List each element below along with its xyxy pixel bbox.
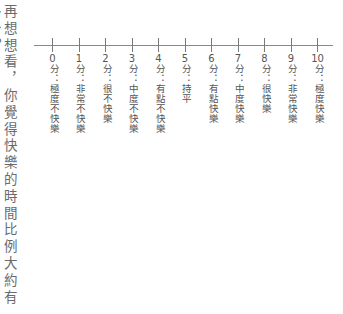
option-description: 很不快樂 [99,84,113,124]
scale-option-8[interactable]: 8 分 ： 很快樂 [258,54,272,114]
option-value: 5 [175,54,195,64]
option-value: 1 [69,54,89,64]
scale-option-1[interactable]: 1 分 ： 非常不快樂 [72,54,86,134]
option-description: 非常不快樂 [72,84,86,134]
option-separator: ： [99,74,113,84]
option-description: 有點快樂 [205,84,219,124]
option-unit: 分 [284,64,298,74]
option-value: 10 [308,54,328,64]
scale-option-5[interactable]: 5 分 ： 持平 [178,54,192,104]
scale-option-10[interactable]: 10 分 ： 極度快樂 [311,54,325,124]
option-unit: 分 [178,64,192,74]
option-separator: ： [125,74,139,84]
option-description: 非常快樂 [284,84,298,124]
option-unit: 分 [72,64,86,74]
option-separator: ： [205,74,219,84]
option-description: 持平 [178,84,192,104]
option-separator: ： [284,74,298,84]
option-separator: ： [311,74,325,84]
option-unit: 分 [99,64,113,74]
option-description: 有點不快樂 [152,84,166,134]
scale-option-9[interactable]: 9 分 ： 非常快樂 [284,54,298,124]
scale-option-7[interactable]: 7 分 ： 中度快樂 [231,54,245,124]
happiness-scale: 0 分 ： 極度不快樂 1 分 ： 非常不快樂 2 分 ： 很不快樂 3 分 ：… [34,38,334,148]
option-value: 6 [202,54,222,64]
scale-tick-0 [52,38,53,52]
option-value: 3 [122,54,142,64]
scale-tick-10 [317,38,318,52]
option-unit: 分 [152,64,166,74]
scale-tick-8 [264,38,265,52]
scale-option-2[interactable]: 2 分 ： 很不快樂 [99,54,113,124]
option-separator: ： [46,74,60,84]
option-separator: ： [178,74,192,84]
option-value: 8 [255,54,275,64]
option-value: 4 [149,54,169,64]
option-unit: 分 [46,64,60,74]
option-value: 9 [281,54,301,64]
question-text: 再想想看，你覺得快樂的時間比例大約有多少？ [2,4,18,314]
option-separator: ： [152,74,166,84]
scale-tick-1 [79,38,80,52]
option-description: 中度不快樂 [125,84,139,134]
scale-option-6[interactable]: 6 分 ： 有點快樂 [205,54,219,124]
scale-tick-9 [291,38,292,52]
option-value: 2 [96,54,116,64]
option-unit: 分 [258,64,272,74]
scale-tick-4 [158,38,159,52]
option-description: 極度不快樂 [46,84,60,134]
option-separator: ： [231,74,245,84]
scale-option-3[interactable]: 3 分 ： 中度不快樂 [125,54,139,134]
scale-tick-7 [238,38,239,52]
option-separator: ： [72,74,86,84]
scale-tick-5 [185,38,186,52]
option-description: 很快樂 [258,84,272,114]
scale-tick-6 [211,38,212,52]
scale-option-4[interactable]: 4 分 ： 有點不快樂 [152,54,166,134]
option-unit: 分 [125,64,139,74]
option-separator: ： [258,74,272,84]
scale-tick-2 [105,38,106,52]
option-unit: 分 [231,64,245,74]
option-description: 中度快樂 [231,84,245,124]
scale-tick-3 [132,38,133,52]
option-unit: 分 [311,64,325,74]
option-value: 0 [43,54,63,64]
option-value: 7 [228,54,248,64]
scale-option-0[interactable]: 0 分 ： 極度不快樂 [46,54,60,134]
option-description: 極度快樂 [311,84,325,124]
option-unit: 分 [205,64,219,74]
